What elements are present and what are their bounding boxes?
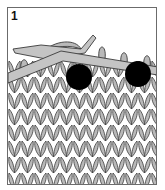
step-number: 1 <box>11 9 18 23</box>
stitch-marker-left <box>66 64 92 90</box>
illustration-frame: 1 <box>7 7 157 185</box>
knitting-illustration <box>8 8 157 185</box>
stitch-marker-right <box>125 61 151 87</box>
